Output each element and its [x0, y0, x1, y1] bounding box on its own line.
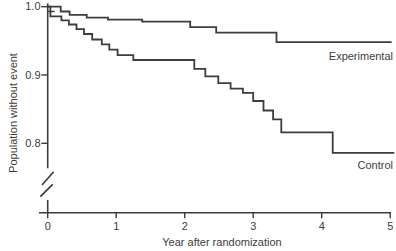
- x-tick-label: 3: [250, 220, 256, 232]
- y-tick-label: 0.8: [25, 137, 40, 149]
- x-tick-label: 5: [387, 220, 393, 232]
- y-axis-break-slash: [40, 184, 52, 196]
- x-tick-label: 4: [319, 220, 325, 232]
- y-tick-label: 1.0: [25, 0, 40, 12]
- experimental-curve: [48, 7, 392, 43]
- chart-canvas: 1.00.90.8012345: [0, 0, 396, 251]
- x-axis-title: Year after randomization: [50, 236, 394, 248]
- experimental-curve-label: Experimental: [329, 50, 393, 62]
- control-curve: [48, 7, 395, 153]
- km-survival-chart: 1.00.90.8012345 Population without event…: [0, 0, 396, 251]
- x-tick-label: 0: [45, 220, 51, 232]
- y-axis-break-slash: [42, 172, 54, 185]
- y-axis-title: Population without event: [7, 38, 19, 188]
- y-tick-label: 0.9: [25, 69, 40, 81]
- control-curve-label: Control: [358, 159, 393, 171]
- x-tick-label: 2: [182, 220, 188, 232]
- x-tick-label: 1: [113, 220, 119, 232]
